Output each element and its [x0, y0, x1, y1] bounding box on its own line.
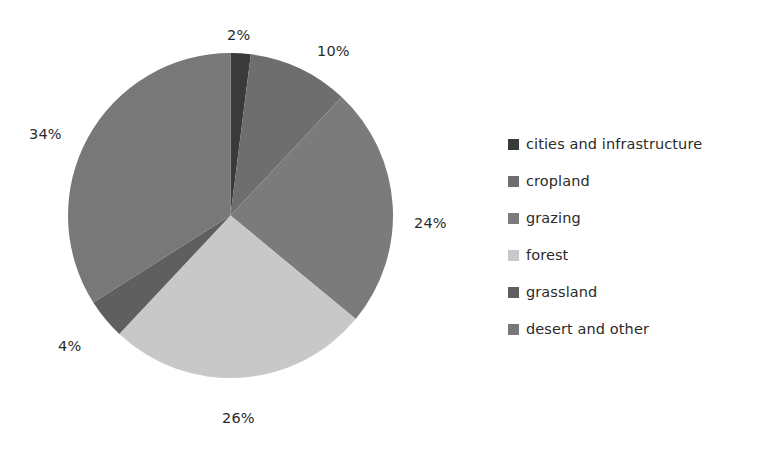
- slice-label-cities: 2%: [227, 28, 250, 43]
- legend-swatch-icon: [508, 250, 519, 261]
- legend-swatch-icon: [508, 213, 519, 224]
- pie-svg: [68, 53, 393, 378]
- legend-item[interactable]: cities and infrastructure: [508, 126, 748, 163]
- legend-item[interactable]: grazing: [508, 200, 748, 237]
- legend-item[interactable]: forest: [508, 237, 748, 274]
- legend-item-label: grassland: [526, 285, 597, 300]
- legend-item[interactable]: grassland: [508, 274, 748, 311]
- slice-label-grazing: 24%: [414, 216, 447, 231]
- legend-item-label: desert and other: [526, 322, 649, 337]
- legend-item[interactable]: desert and other: [508, 311, 748, 348]
- legend-item-label: forest: [526, 248, 568, 263]
- slice-label-forest: 26%: [222, 411, 255, 426]
- legend-swatch-icon: [508, 324, 519, 335]
- legend-swatch-icon: [508, 176, 519, 187]
- slice-label-desert: 34%: [29, 127, 62, 142]
- legend-item-label: cropland: [526, 174, 590, 189]
- slice-label-grassland: 4%: [58, 339, 81, 354]
- legend-swatch-icon: [508, 139, 519, 150]
- chart-legend: cities and infrastructurecroplandgrazing…: [508, 126, 748, 348]
- pie-chart-figure: 2% 10% 24% 26% 4% 34% cities and infrast…: [0, 0, 764, 458]
- legend-swatch-icon: [508, 287, 519, 298]
- pie-chart-plot-area: [68, 53, 393, 378]
- legend-item[interactable]: cropland: [508, 163, 748, 200]
- legend-item-label: grazing: [526, 211, 581, 226]
- pie-slice-group: [68, 53, 393, 378]
- legend-item-label: cities and infrastructure: [526, 137, 702, 152]
- slice-label-cropland: 10%: [317, 44, 350, 59]
